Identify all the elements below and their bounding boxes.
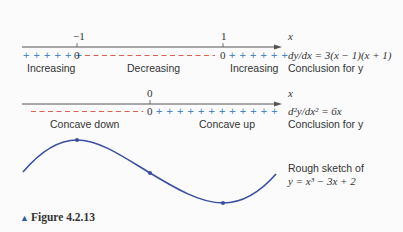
zero-marker-center: 0 — [147, 106, 153, 117]
conclusion-increasing-left: Increasing — [27, 63, 75, 74]
conclusion-increasing-right: Increasing — [230, 63, 278, 74]
sketch-label-line2: y = x³ − 3x + 2 — [288, 176, 356, 187]
caption-triangle-icon: ▲ — [20, 214, 29, 223]
cubic-curve-sketch — [23, 138, 276, 205]
inflection-point — [148, 171, 152, 175]
conclusion-concave-down: Concave down — [50, 119, 119, 130]
tick-label-one: 1 — [221, 31, 227, 42]
relative-max-point — [75, 138, 79, 142]
zero-marker-left: 0 — [74, 50, 80, 61]
relative-min-point — [221, 201, 225, 205]
figure-caption: Figure 4.2.13 — [31, 212, 95, 224]
sketch-label-line1: Rough sketch of — [288, 163, 364, 174]
axis-label-x-2: x — [288, 88, 293, 99]
plus-signs-right: + + + + + + — [229, 50, 288, 61]
zero-marker-right: 0 — [220, 50, 226, 61]
conclusion-label-1: Conclusion for y — [288, 63, 363, 74]
second-derivative-formula: d²y/dx² = 6x — [288, 106, 342, 117]
first-derivative-formula: dy/dx = 3(x − 1)(x + 1) — [288, 50, 392, 61]
conclusion-label-2: Conclusion for y — [288, 119, 363, 130]
tick-label-zero: 0 — [147, 88, 153, 99]
conclusion-decreasing: Decreasing — [127, 63, 180, 74]
tick-label-neg-one: −1 — [73, 31, 85, 42]
conclusion-concave-up: Concave up — [199, 119, 255, 130]
plus-signs-concave-up: + + + + + + + + + + + + — [156, 106, 278, 117]
axis-label-x-1: x — [288, 31, 293, 42]
